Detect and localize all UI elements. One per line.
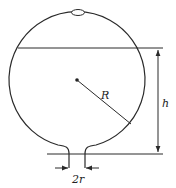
height-label: h bbox=[162, 97, 169, 110]
radius-line bbox=[77, 80, 131, 124]
tank-diagram: h R 2r bbox=[0, 0, 176, 188]
top-valve-icon bbox=[72, 10, 85, 16]
sphere-outline bbox=[9, 12, 145, 168]
outlet-diameter-label: 2r bbox=[71, 173, 85, 186]
radius-label: R bbox=[100, 89, 109, 102]
